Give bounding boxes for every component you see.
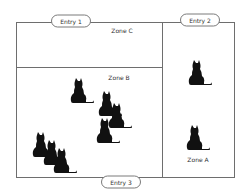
cat-icon <box>188 60 212 86</box>
zone-b-label: Zone B <box>108 74 129 81</box>
divider-vertical <box>162 22 163 178</box>
divider-horizontal <box>16 67 163 68</box>
frame-left-wall <box>16 22 17 178</box>
cat-icon <box>70 78 94 104</box>
floor-plan-diagram: Zone C Zone B Zone A Entry 1 Entry 2 Ent… <box>0 0 247 196</box>
zone-c-label: Zone C <box>111 27 132 34</box>
cat-icon <box>53 148 77 174</box>
frame-right-wall <box>234 22 235 178</box>
cat-icon <box>96 118 120 144</box>
zone-a-label: Zone A <box>187 156 208 163</box>
entry-2-pill: Entry 2 <box>180 14 220 27</box>
cat-icon <box>186 125 210 151</box>
entry-1-pill: Entry 1 <box>51 15 91 28</box>
entry-3-pill: Entry 3 <box>101 176 141 189</box>
